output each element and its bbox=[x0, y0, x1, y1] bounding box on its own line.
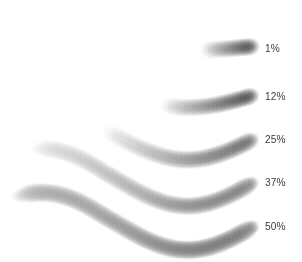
flow-label-25: 25% bbox=[265, 133, 286, 145]
brush-flow-figure: 1%12%25%37%50% bbox=[0, 0, 302, 262]
flow-label-12: 12% bbox=[265, 90, 286, 102]
flow-labels-layer: 1%12%25%37%50% bbox=[0, 0, 302, 262]
flow-label-37: 37% bbox=[265, 176, 286, 188]
flow-label-1: 1% bbox=[265, 42, 280, 54]
flow-label-50: 50% bbox=[265, 220, 286, 232]
